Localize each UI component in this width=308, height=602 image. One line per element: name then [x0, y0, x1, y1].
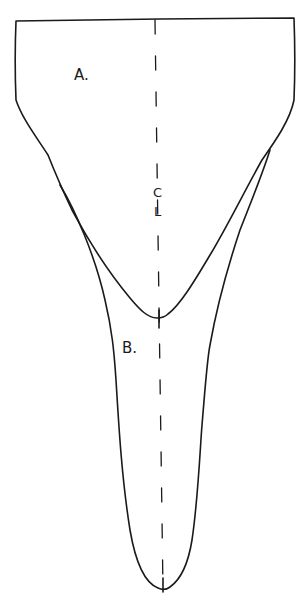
piece-a-label: A. — [74, 66, 89, 84]
piece-b-label: B. — [122, 339, 137, 357]
centerline-label-l: L — [154, 204, 162, 219]
pattern-diagram: A. B. C L — [0, 0, 308, 602]
center-line — [155, 20, 163, 590]
piece-b-outline — [60, 150, 270, 589]
centerline-label-c: C — [153, 185, 162, 200]
